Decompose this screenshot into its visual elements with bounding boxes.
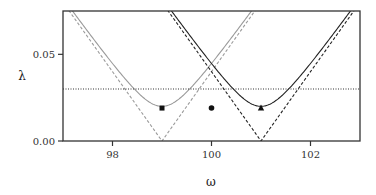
y-axis-ticks: 0.000.05 (33, 49, 63, 147)
black-asymptote-line (63, 0, 360, 141)
y-tick-label: 0.00 (33, 136, 55, 147)
y-tick-label: 0.05 (33, 49, 55, 60)
markers (160, 105, 265, 111)
x-axis-label: ω (206, 175, 216, 189)
x-tick-label: 98 (106, 149, 119, 160)
y-axis-label: λ (18, 69, 26, 83)
triangle-marker (258, 105, 264, 111)
circle-marker (209, 105, 215, 111)
x-tick-label: 102 (301, 149, 320, 160)
plot-lines (63, 0, 360, 141)
black-hyperbola-line (63, 0, 360, 106)
gray-asymptote-line (63, 0, 360, 141)
x-tick-label: 100 (202, 149, 221, 160)
gray-hyperbola-line (63, 0, 360, 106)
square-marker (160, 106, 165, 111)
chart: 98100102 0.000.05 ω λ (0, 0, 376, 195)
x-axis-ticks: 98100102 (106, 141, 320, 160)
plot-frame (63, 11, 360, 141)
